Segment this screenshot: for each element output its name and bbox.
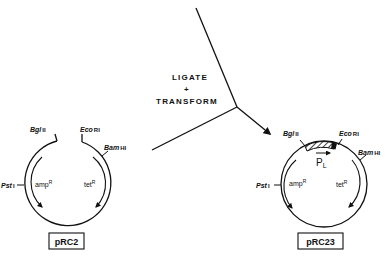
site-bglii: BglII bbox=[283, 130, 299, 138]
site-psti: PstI bbox=[256, 182, 270, 189]
plasmid-prc2: BglII EcoRI BamHI PstI ampR tetR pRC2 bbox=[1, 126, 127, 249]
plasmid-construction-diagram: LIGATE + TRANSFORM BglII EcoRI BamHI Pst… bbox=[0, 0, 385, 259]
plasmid-name: pRC23 bbox=[306, 237, 335, 247]
gene-tet: tetR bbox=[336, 179, 348, 188]
plasmid-prc23: PL BglII EcoRI BamHI PstI ampR tetR pRC2… bbox=[256, 130, 381, 249]
site-psti: PstI bbox=[1, 182, 15, 189]
plasmid-name: pRC2 bbox=[55, 237, 79, 247]
gene-amp: ampR bbox=[35, 179, 53, 189]
gene-tet: tetR bbox=[84, 179, 96, 188]
site-bglii: BglII bbox=[30, 126, 46, 134]
site-bamhi: BamHI bbox=[358, 149, 381, 156]
tet-arrow-icon bbox=[349, 160, 360, 207]
arrow-icon bbox=[237, 107, 270, 134]
site-ecori: EcoRI bbox=[80, 126, 100, 133]
ligate-transform-lines bbox=[152, 8, 270, 150]
gene-amp: ampR bbox=[289, 178, 307, 188]
process-label: LIGATE + TRANSFORM bbox=[156, 73, 218, 106]
svg-text:TRANSFORM: TRANSFORM bbox=[156, 97, 218, 106]
svg-text:LIGATE: LIGATE bbox=[172, 73, 208, 82]
site-ecori: EcoRI bbox=[339, 130, 359, 137]
promoter-pl: PL bbox=[316, 157, 327, 169]
svg-text:+: + bbox=[184, 85, 190, 94]
site-bamhi: BamHI bbox=[104, 144, 127, 151]
